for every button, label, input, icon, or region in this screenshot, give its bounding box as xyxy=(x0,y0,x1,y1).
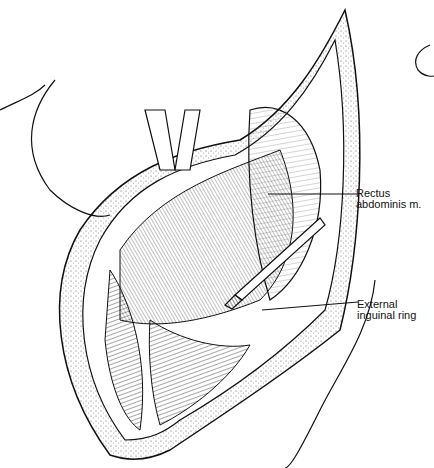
label-external-inguinal-ring: External inguinal ring xyxy=(357,299,416,321)
retractor-icon xyxy=(145,110,200,170)
anatomical-illustration xyxy=(0,0,434,468)
label-inguinal-line2: inguinal ring xyxy=(357,310,416,321)
label-rectus-abdominis: Rectus abdominis m. xyxy=(356,188,421,210)
label-rectus-line2: abdominis m. xyxy=(356,199,421,210)
